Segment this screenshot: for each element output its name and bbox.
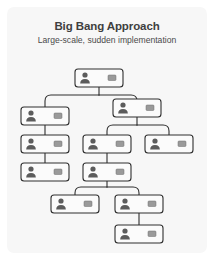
label-bar-icon (84, 201, 92, 207)
org-node[interactable] (83, 163, 131, 181)
label-bar-icon (108, 75, 116, 81)
label-bar-icon (148, 231, 156, 237)
label-bar-icon (146, 105, 154, 111)
connector-n8-to-n9 (75, 187, 107, 195)
connector-n3-to-n6 (137, 125, 169, 135)
org-node[interactable] (113, 99, 161, 117)
connector-n3-to-n5 (107, 125, 137, 135)
label-bar-icon (148, 201, 156, 207)
connector-root-to-left (45, 95, 99, 107)
org-node[interactable] (115, 195, 163, 213)
card-header: Big Bang Approach Large-scale, sudden im… (7, 7, 207, 46)
label-bar-icon (54, 169, 62, 175)
org-chart-container (7, 53, 207, 253)
org-node[interactable] (145, 135, 193, 153)
label-bar-icon (116, 169, 124, 175)
org-node[interactable] (115, 225, 163, 243)
org-chart-svg (7, 53, 207, 253)
org-node[interactable] (21, 135, 69, 153)
label-bar-icon (178, 141, 186, 147)
label-bar-icon (54, 113, 62, 119)
connector-n8-to-n10 (107, 187, 139, 195)
org-node[interactable] (51, 195, 99, 213)
label-bar-icon (116, 141, 124, 147)
label-bar-icon (54, 141, 62, 147)
diagram-card: Big Bang Approach Large-scale, sudden im… (7, 7, 207, 253)
page-title: Big Bang Approach (7, 19, 207, 33)
org-node[interactable] (83, 135, 131, 153)
org-node[interactable] (21, 107, 69, 125)
org-node[interactable] (21, 163, 69, 181)
org-node[interactable] (75, 69, 123, 87)
page-subtitle: Large-scale, sudden implementation (7, 34, 207, 46)
